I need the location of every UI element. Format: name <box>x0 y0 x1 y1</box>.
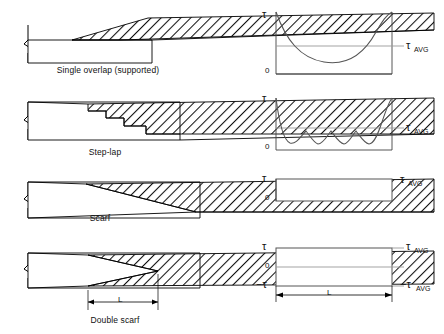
tau-avg-label-1: τ <box>406 39 410 51</box>
chart-double-scarf <box>276 248 404 302</box>
tau-avg-subscript-1: AVG <box>414 46 429 53</box>
caption-scarf: Scarf <box>70 213 130 223</box>
y-axis-label-neg-tau-4: −τ <box>256 278 267 290</box>
tau-avg-subscript-4-bottom: AVG <box>416 285 431 292</box>
caption-double-scarf: Double scarf <box>60 315 170 325</box>
y-axis-label-tau-2: τ <box>262 92 266 104</box>
chart-scarf <box>276 179 392 201</box>
length-label-chart: L <box>327 288 332 297</box>
length-dimension-chart <box>276 286 392 302</box>
y-axis-zero-3: 0 <box>265 193 270 202</box>
stress-uniform-block <box>276 179 392 201</box>
y-axis-zero-4: 0 <box>265 261 270 270</box>
row-step-lap <box>0 88 444 173</box>
y-axis-label-tau-3: τ <box>262 172 266 184</box>
tau-avg-subscript-3: AVG <box>408 180 423 187</box>
row-scarf <box>0 167 444 247</box>
tau-avg-label-2: τ <box>406 121 410 133</box>
length-label-joint: L <box>118 295 123 304</box>
tau-avg-subscript-2: AVG <box>414 128 429 135</box>
y-axis-zero-2: 0 <box>265 142 270 151</box>
caption-single-overlap: Single overlap (supported) <box>38 65 178 75</box>
joint-step-lap <box>24 98 434 140</box>
y-axis-zero-1: 0 <box>265 66 270 75</box>
tau-avg-subscript-4-top: AVG <box>414 247 429 254</box>
tau-avg-label-4-bottom: −τ <box>400 278 411 290</box>
figure-root: τ 0 τ AVG Single overlap (supported) τ 0… <box>0 0 444 334</box>
y-axis-label-tau-1: τ <box>262 8 266 20</box>
tau-avg-label-4-top: τ <box>406 240 410 252</box>
caption-step-lap: Step-lap <box>60 147 150 157</box>
tau-avg-label-3: τ <box>400 173 404 185</box>
y-axis-label-tau-4: τ <box>262 240 266 252</box>
